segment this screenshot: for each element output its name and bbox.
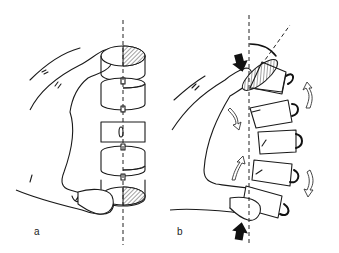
rotation-arrow-lower-left-icon xyxy=(232,156,245,180)
rotation-arrow-upper-right-icon xyxy=(303,82,312,108)
compression-arrow-bottom-icon xyxy=(231,221,250,242)
angle-arc xyxy=(250,44,276,56)
panel-a-illustration xyxy=(0,0,170,253)
rotation-arrow-upper-left-icon xyxy=(228,108,241,130)
panel-b: b xyxy=(170,0,339,253)
panel-a: a xyxy=(0,0,170,253)
cylinder-b-2 xyxy=(250,100,292,128)
cylinder-b-3 xyxy=(258,130,296,154)
thumb-b xyxy=(230,197,260,220)
rotation-arrow-lower-right-icon xyxy=(304,170,313,197)
panel-label-b: b xyxy=(177,226,183,237)
panel-b-illustration xyxy=(170,0,339,253)
panel-label-a: a xyxy=(34,226,40,237)
